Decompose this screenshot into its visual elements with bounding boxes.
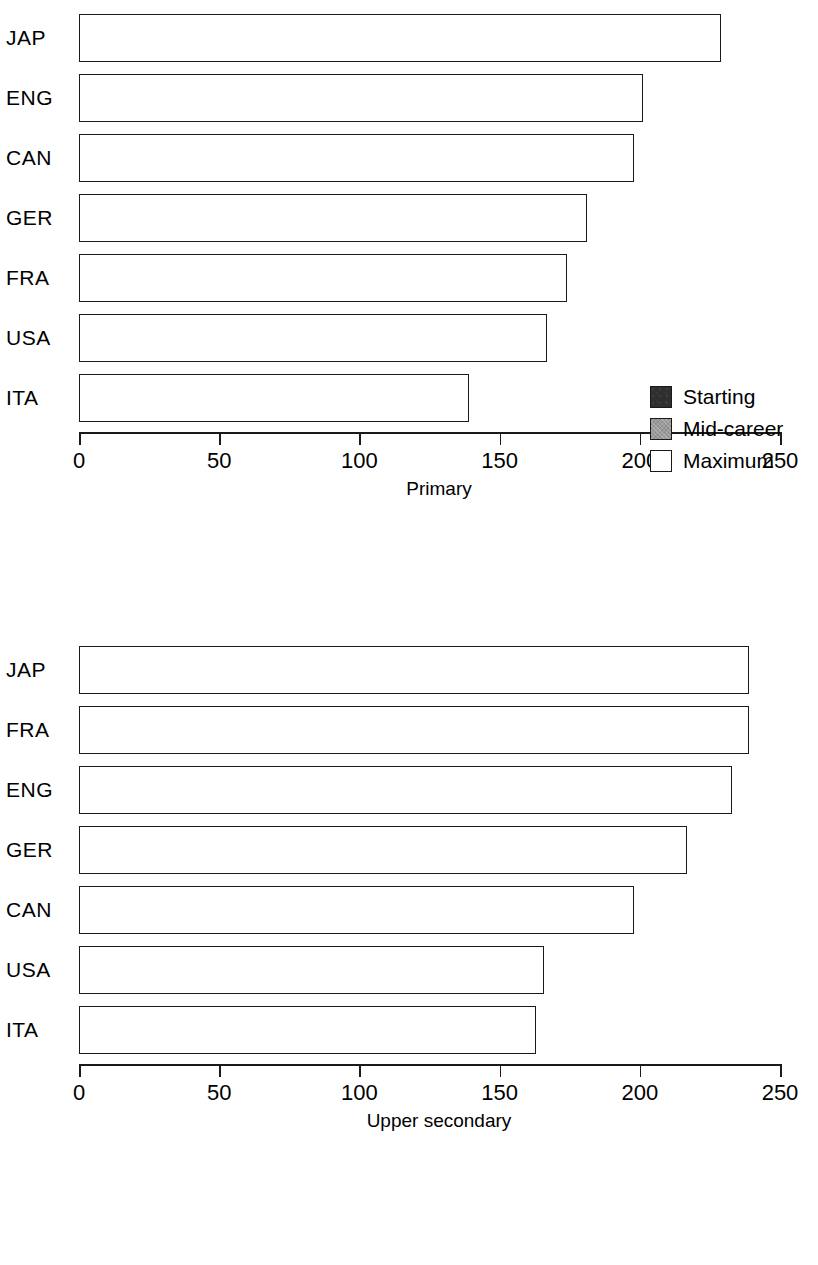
bar-segment-max [79, 646, 749, 694]
axis-tick [640, 1064, 642, 1077]
bar-category-label: USA [6, 308, 72, 368]
bar-segment-max [79, 946, 544, 994]
legend-label: Mid-career [683, 416, 783, 442]
axis-tick [79, 1064, 81, 1077]
bar-track [79, 766, 732, 814]
bar-track [79, 194, 587, 242]
bar-track [79, 14, 721, 62]
bar-track [79, 374, 469, 422]
bar-segment-max [79, 74, 643, 122]
bar-category-label: ENG [6, 68, 72, 128]
bar-track [79, 886, 634, 934]
axis-tick-label: 50 [207, 1080, 231, 1106]
bar-segment-max [79, 374, 469, 422]
bar-segment-max [79, 766, 732, 814]
axis-title: Upper secondary [0, 1110, 818, 1132]
bar-segment-max [79, 826, 687, 874]
bar-track [79, 74, 643, 122]
bar-category-label: CAN [6, 880, 72, 940]
legend-swatch-mid-icon [650, 418, 672, 440]
bar-segment-max [79, 706, 749, 754]
bar-segment-max [79, 194, 587, 242]
legend-label: Maximum [683, 448, 774, 474]
axis-tick-label: 100 [341, 1080, 378, 1106]
axis-tick [79, 432, 81, 445]
bar-category-label: CAN [6, 128, 72, 188]
bar-segment-max [79, 1006, 536, 1054]
bar-category-label: JAP [6, 640, 72, 700]
bar-segment-max [79, 314, 547, 362]
bar-track [79, 254, 567, 302]
bar-category-label: ITA [6, 368, 72, 428]
bar-category-label: JAP [6, 8, 72, 68]
chart-panel-primary: JAPENGCANGERFRAUSAITA 050100150200250Pri… [0, 0, 818, 620]
axis-tick [500, 1064, 502, 1077]
bar-category-label: USA [6, 940, 72, 1000]
bar-track [79, 826, 687, 874]
bar-segment-max [79, 886, 634, 934]
bar-track [79, 134, 634, 182]
axis-tick [500, 432, 502, 445]
bar-track [79, 646, 749, 694]
axis-tick [219, 1064, 221, 1077]
legend-swatch-max-icon [650, 450, 672, 472]
axis-line [79, 1064, 780, 1066]
bar-track [79, 1006, 536, 1054]
bar-segment-max [79, 134, 634, 182]
axis-tick-label: 0 [73, 1080, 85, 1106]
bar-segment-max [79, 14, 721, 62]
bar-track [79, 314, 547, 362]
axis-tick-label: 150 [481, 448, 518, 474]
bar-track [79, 946, 544, 994]
bar-category-label: FRA [6, 700, 72, 760]
chart-panel-upper-secondary: JAPFRAENGGERCANUSAITA 050100150200250Upp… [0, 632, 818, 1265]
axis-tick [780, 1064, 782, 1077]
bar-category-label: GER [6, 188, 72, 248]
bar-segment-max [79, 254, 567, 302]
axis-tick [219, 432, 221, 445]
bar-category-label: GER [6, 820, 72, 880]
axis-tick-label: 50 [207, 448, 231, 474]
axis-line [79, 432, 780, 434]
bar-category-label: ENG [6, 760, 72, 820]
axis-tick-label: 150 [481, 1080, 518, 1106]
axis-tick [359, 432, 361, 445]
axis-tick [359, 1064, 361, 1077]
page-caption-strip [0, 1256, 818, 1265]
axis-tick-label: 100 [341, 448, 378, 474]
bar-category-label: ITA [6, 1000, 72, 1060]
bar-track [79, 706, 749, 754]
bar-category-label: FRA [6, 248, 72, 308]
axis-tick-label: 250 [762, 1080, 799, 1106]
axis-tick-label: 200 [621, 1080, 658, 1106]
axis-tick-label: 0 [73, 448, 85, 474]
axis-tick [640, 432, 642, 445]
axis-title: Primary [0, 478, 818, 500]
legend-label: Starting [683, 384, 755, 410]
legend-swatch-starting-icon [650, 386, 672, 408]
